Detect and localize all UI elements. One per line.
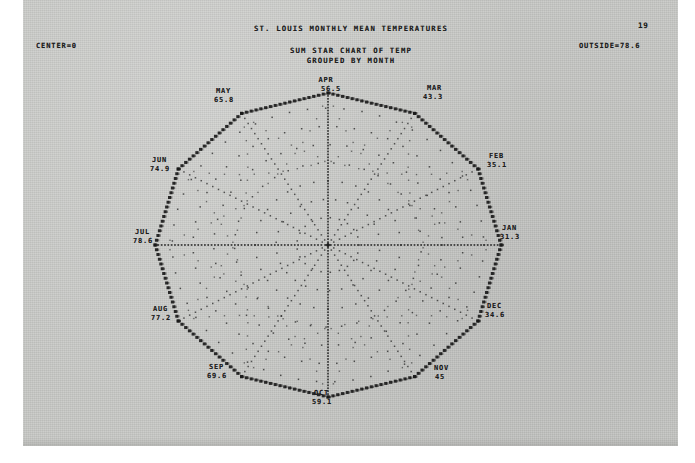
point-label-aug: AUG xyxy=(153,305,168,314)
point-value-nov: 45 xyxy=(435,373,445,382)
sum-star-plot xyxy=(23,0,678,446)
point-value-mar: 43.3 xyxy=(423,93,443,102)
point-value-dec: 34.6 xyxy=(485,311,505,320)
point-label-feb: FEB xyxy=(489,152,504,161)
point-value-sep: 69.6 xyxy=(207,372,227,381)
point-value-jul: 78.6 xyxy=(133,237,153,246)
point-value-aug: 77.2 xyxy=(151,314,171,323)
point-value-apr: 56.5 xyxy=(321,85,341,94)
point-label-jan: JAN xyxy=(502,224,517,233)
point-value-jan: 31.3 xyxy=(500,233,520,242)
point-value-jun: 74.9 xyxy=(150,165,170,174)
point-label-mar: MAR xyxy=(427,84,442,93)
point-label-may: MAY xyxy=(216,87,231,96)
point-label-oct: OCT xyxy=(314,389,329,398)
point-label-apr: APR xyxy=(318,76,333,85)
scanned-page: ST. LOUIS MONTHLY MEAN TEMPERATURES SUM … xyxy=(23,0,678,446)
point-label-dec: DEC xyxy=(487,302,502,311)
point-label-sep: SEP xyxy=(209,363,224,372)
point-value-feb: 35.1 xyxy=(487,161,507,170)
point-label-jul: JUL xyxy=(135,228,150,237)
point-value-may: 65.8 xyxy=(214,96,234,105)
point-label-jun: JUN xyxy=(152,156,167,165)
point-label-nov: NOV xyxy=(434,364,449,373)
point-value-oct: 59.1 xyxy=(312,398,332,407)
